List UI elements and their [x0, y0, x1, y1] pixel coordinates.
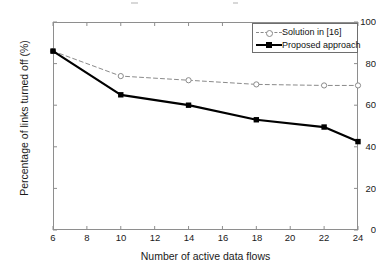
y-tick-label: 20 — [332, 184, 376, 194]
y-tick-label: 40 — [332, 142, 376, 152]
x-tick-label: 6 — [38, 233, 68, 243]
x-tick-label: 10 — [106, 233, 136, 243]
y-axis-label: Percentage of links turned off (%) — [18, 8, 30, 228]
chart-legend: Solution in [16] Proposed approach — [252, 23, 358, 53]
x-tick-label: 24 — [343, 233, 373, 243]
legend-entry-proposed: Proposed approach — [256, 39, 354, 52]
y-tick-label: 80 — [332, 59, 376, 69]
x-axis-label: Number of active data flows — [53, 250, 358, 262]
x-tick-label: 14 — [174, 233, 204, 243]
x-tick-label: 20 — [275, 233, 305, 243]
x-tick-label: 22 — [309, 233, 339, 243]
legend-label: Solution in [16] — [282, 27, 342, 38]
x-tick-label: 8 — [72, 233, 102, 243]
y-tick-label: 60 — [332, 100, 376, 110]
x-tick-label: 16 — [208, 233, 238, 243]
data-series-layer — [50, 48, 360, 144]
legend-entry-solution: Solution in [16] — [256, 26, 354, 39]
chart-figure: 100 80 60 40 20 0 6 8 10 12 14 16 18 20 … — [0, 0, 376, 274]
legend-solid-square-icon — [256, 40, 282, 51]
x-tick-label: 18 — [242, 233, 272, 243]
legend-dashed-circle-icon — [256, 27, 282, 38]
legend-label: Proposed approach — [282, 40, 361, 51]
x-tick-label: 12 — [140, 233, 170, 243]
